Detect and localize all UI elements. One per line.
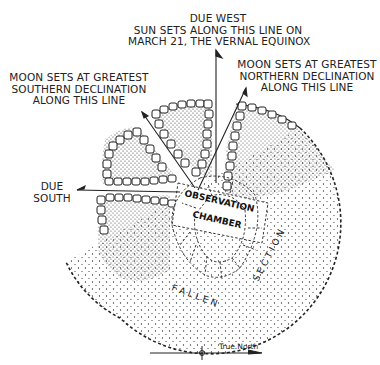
- moon-south-arrow-icon: [142, 112, 148, 118]
- site-plan-diagram: OBSERVATION CHAMBER F A L L E N S E C T …: [0, 0, 380, 365]
- due-south-arrow-icon: [77, 186, 85, 190]
- moon-north-arrow-icon: [243, 88, 247, 96]
- due-south-line: [77, 190, 180, 192]
- true-north-label: True North: [218, 342, 259, 351]
- due-west-arrow-icon: [216, 50, 222, 58]
